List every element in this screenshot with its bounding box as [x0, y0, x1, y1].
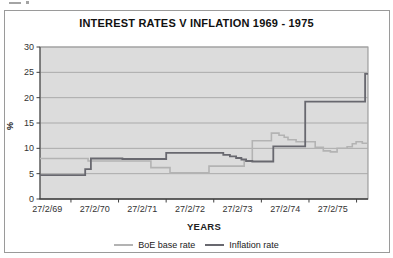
chart-plot: 05101520253027/2/6927/2/7027/2/7127/2/72…: [0, 0, 393, 258]
svg-text:30: 30: [24, 42, 34, 52]
x-axis-label: YEARS: [40, 221, 368, 232]
svg-text:20: 20: [24, 93, 34, 103]
svg-text:27/2/75: 27/2/75: [318, 204, 348, 214]
legend-label-boe: BoE base rate: [138, 240, 195, 250]
svg-text:27/2/71: 27/2/71: [127, 204, 157, 214]
svg-text:10: 10: [24, 143, 34, 153]
svg-text:5: 5: [29, 169, 34, 179]
legend: BoE base rate Inflation rate: [4, 238, 389, 252]
svg-text:27/2/74: 27/2/74: [270, 204, 300, 214]
svg-text:27/2/73: 27/2/73: [223, 204, 253, 214]
svg-text:15: 15: [24, 118, 34, 128]
legend-item-inflation: Inflation rate: [205, 240, 279, 250]
svg-text:25: 25: [24, 67, 34, 77]
inflation-line-swatch-icon: [205, 244, 224, 246]
legend-item-boe: BoE base rate: [114, 240, 195, 250]
chart-screenshot: INTEREST RATES V INFLATION 1969 - 1975 0…: [0, 0, 393, 258]
legend-label-inflation: Inflation rate: [229, 240, 279, 250]
y-axis-label: %: [5, 116, 19, 130]
svg-text:27/2/72: 27/2/72: [175, 204, 205, 214]
svg-text:27/2/69: 27/2/69: [32, 204, 62, 214]
boe-line-swatch-icon: [114, 244, 133, 246]
svg-text:0: 0: [29, 194, 34, 204]
svg-text:27/2/70: 27/2/70: [80, 204, 110, 214]
